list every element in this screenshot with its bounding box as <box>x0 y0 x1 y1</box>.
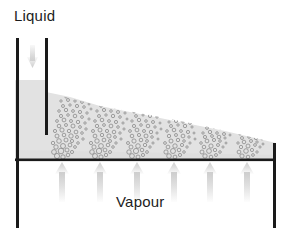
liquid-inlet-arrow <box>27 45 38 68</box>
vapour-label: Vapour <box>116 193 164 210</box>
vapour-arrow-2 <box>93 162 107 202</box>
vapour-arrow-5 <box>203 162 217 202</box>
vapour-arrow-6 <box>240 162 254 202</box>
diagram-canvas: Liquid Vapour <box>0 0 290 245</box>
outlet-weir-wall <box>273 143 276 228</box>
tray-deck-line <box>15 159 276 162</box>
liquid-label: Liquid <box>14 7 55 24</box>
vapour-arrow-1 <box>55 162 69 202</box>
vapour-arrow-4 <box>167 162 181 202</box>
downcomer-outer-wall <box>16 38 19 228</box>
downcomer-apron-wall <box>45 38 48 135</box>
